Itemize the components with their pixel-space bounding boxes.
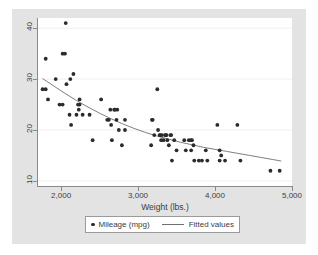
scatter-point bbox=[223, 159, 227, 163]
y-tick-label: 10 bbox=[25, 172, 34, 186]
x-tick-label: 5,000 bbox=[272, 191, 312, 200]
chart-legend: Mileage (mpg) Fitted values bbox=[85, 216, 240, 233]
scatter-point bbox=[235, 123, 239, 127]
scatter-point bbox=[108, 108, 112, 112]
scatter-point bbox=[204, 148, 208, 152]
scatter-point bbox=[184, 148, 188, 152]
scatter-point bbox=[192, 159, 196, 163]
scatter-point bbox=[192, 143, 196, 147]
scatter-point bbox=[172, 138, 176, 142]
x-tick-label: 2,000 bbox=[41, 191, 81, 200]
plot-area bbox=[38, 18, 292, 186]
scatter-point bbox=[152, 133, 156, 137]
scatter-plot-figure: 10203040 2,0003,0004,0005,000 Weight (lb… bbox=[0, 0, 318, 255]
scatter-point bbox=[99, 98, 103, 102]
y-tick-mark bbox=[33, 28, 37, 29]
scatter-point bbox=[46, 98, 50, 102]
scatter-point bbox=[91, 138, 95, 142]
y-tick-mark bbox=[33, 181, 37, 182]
scatter-point bbox=[123, 118, 127, 122]
scatter-point bbox=[75, 113, 79, 117]
scatter-point bbox=[170, 159, 174, 163]
scatter-point bbox=[162, 138, 166, 142]
scatter-point bbox=[77, 108, 81, 112]
scatter-point bbox=[182, 138, 186, 142]
scatter-point bbox=[190, 138, 194, 142]
scatter-point bbox=[61, 103, 65, 107]
scatter-point bbox=[65, 82, 69, 86]
scatter-point bbox=[81, 113, 85, 117]
scatter-point bbox=[63, 52, 67, 56]
scatter-point bbox=[72, 72, 76, 76]
scatter-point bbox=[169, 133, 173, 137]
scatter-point bbox=[68, 77, 72, 81]
x-tick-label: 3,000 bbox=[118, 191, 158, 200]
legend-item-mileage: Mileage (mpg) bbox=[91, 220, 150, 229]
scatter-point bbox=[110, 138, 114, 142]
plot-svg bbox=[38, 18, 292, 186]
scatter-point bbox=[200, 159, 204, 163]
scatter-point bbox=[278, 169, 282, 173]
x-axis-line bbox=[37, 186, 293, 187]
legend-item-fitted: Fitted values bbox=[162, 220, 234, 229]
scatter-point bbox=[218, 148, 222, 152]
x-axis-title: Weight (lbs.) bbox=[38, 202, 292, 212]
scatter-point bbox=[107, 118, 111, 122]
x-tick-label: 4,000 bbox=[195, 191, 235, 200]
legend-label-fitted: Fitted values bbox=[189, 220, 234, 229]
scatter-point bbox=[120, 143, 124, 147]
legend-label-mileage: Mileage (mpg) bbox=[99, 220, 150, 229]
scatter-point bbox=[123, 128, 127, 132]
scatter-point bbox=[115, 118, 119, 122]
y-tick-mark bbox=[33, 130, 37, 131]
scatter-point bbox=[78, 98, 82, 102]
legend-marker-dot-icon bbox=[91, 223, 95, 227]
y-tick-label: 40 bbox=[25, 20, 34, 34]
scatter-point bbox=[156, 128, 160, 132]
y-tick-label: 30 bbox=[25, 71, 34, 85]
scatter-point bbox=[175, 148, 179, 152]
scatter-point bbox=[64, 21, 68, 25]
scatter-point bbox=[117, 128, 121, 132]
y-tick-label: 20 bbox=[25, 122, 34, 136]
scatter-point bbox=[149, 143, 153, 147]
scatter-point bbox=[218, 159, 222, 163]
scatter-point bbox=[78, 103, 82, 107]
scatter-point bbox=[151, 118, 155, 122]
y-tick-mark bbox=[33, 79, 37, 80]
scatter-point bbox=[205, 159, 209, 163]
scatter-point bbox=[165, 133, 169, 137]
scatter-point bbox=[68, 113, 72, 117]
scatter-point bbox=[155, 87, 159, 91]
fitted-values-line bbox=[43, 79, 282, 161]
scatter-point bbox=[109, 123, 113, 127]
legend-marker-line-icon bbox=[162, 224, 184, 225]
scatter-point bbox=[219, 154, 223, 158]
scatter-point bbox=[215, 123, 219, 127]
scatter-point bbox=[44, 87, 48, 91]
scatter-point bbox=[165, 138, 169, 142]
scatter-point bbox=[69, 123, 73, 127]
scatter-point bbox=[54, 77, 58, 81]
scatter-point bbox=[44, 57, 48, 61]
scatter-point bbox=[88, 113, 92, 117]
scatter-point bbox=[115, 108, 119, 112]
scatter-point bbox=[239, 159, 243, 163]
scatter-point bbox=[269, 169, 273, 173]
scatter-point bbox=[167, 143, 171, 147]
y-axis-line bbox=[37, 18, 38, 187]
scatter-point bbox=[189, 148, 193, 152]
